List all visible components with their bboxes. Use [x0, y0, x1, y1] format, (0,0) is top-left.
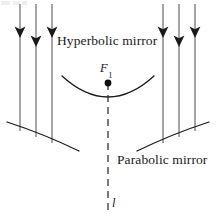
incoming-rays-right: [163, 4, 195, 143]
parabolic-mirror-left-curve: [7, 122, 79, 151]
incoming-rays-left: [20, 4, 52, 143]
focal-point-label: F1: [100, 61, 112, 78]
mirror-ray-diagram: Hyperbolic mirror Parabolic mirror F1 l: [0, 0, 216, 217]
focal-point-letter: F: [100, 61, 108, 75]
focal-point-dot: [105, 80, 112, 87]
parabolic-mirror-right-curve: [137, 122, 209, 151]
focal-point-subscript: 1: [108, 70, 112, 80]
parabolic-mirror-label: Parabolic mirror: [117, 152, 207, 168]
optical-axis-label: l: [112, 196, 115, 211]
hyperbolic-mirror-label: Hyperbolic mirror: [57, 33, 157, 49]
